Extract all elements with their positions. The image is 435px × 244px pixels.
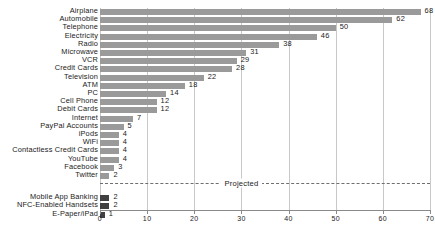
x-axis-line	[100, 210, 430, 211]
bar-value-label: 3	[118, 163, 122, 171]
bar-value-label: 31	[250, 48, 259, 56]
bar	[100, 58, 237, 64]
bar	[100, 165, 114, 171]
x-tick-label-40: 40	[284, 215, 293, 222]
category-label: E-Paper/iPad	[52, 210, 98, 218]
bar-value-label: 68	[425, 7, 434, 15]
bar	[100, 157, 119, 163]
bar-value-label: 7	[137, 114, 141, 122]
bar	[100, 124, 124, 130]
x-tick-0	[100, 210, 101, 214]
x-tick-label-60: 60	[379, 215, 388, 222]
bar-value-label: 38	[283, 40, 292, 48]
bar	[100, 99, 157, 105]
bar-row: ATM18	[0, 82, 435, 90]
bar-value-label: 50	[340, 23, 349, 31]
bar-row: Facebook3	[0, 164, 435, 172]
x-tick-70	[430, 210, 431, 214]
bar-value-label: 18	[189, 81, 198, 89]
bar	[100, 140, 119, 146]
x-tick-label-30: 30	[237, 215, 246, 222]
x-tick-label-20: 20	[190, 215, 199, 222]
x-tick-20	[194, 210, 195, 214]
x-tick-10	[147, 210, 148, 214]
bar	[100, 173, 109, 179]
bar-value-label: 2	[113, 201, 117, 209]
category-label: Twitter	[75, 171, 98, 179]
bar-value-label: 12	[161, 105, 170, 113]
bar-value-label: 62	[396, 15, 405, 23]
bar-row: Television22	[0, 74, 435, 82]
x-tick-label-0: 0	[98, 215, 102, 222]
bar-value-label: 22	[208, 73, 217, 81]
bar-chart: Airplane68Automobile62Telephone50Electri…	[0, 0, 435, 244]
bar	[100, 107, 157, 113]
bar	[100, 9, 421, 15]
x-tick-label-10: 10	[143, 215, 152, 222]
bar-value-label: 14	[170, 89, 179, 97]
bar	[100, 91, 166, 97]
projected-divider-label: Projected	[220, 179, 262, 188]
bar-row: Debit Cards12	[0, 106, 435, 114]
x-tick-label-70: 70	[426, 215, 435, 222]
x-tick-60	[383, 210, 384, 214]
bar	[100, 50, 246, 56]
bar-value-label: 5	[128, 122, 132, 130]
bar-row: iPods4	[0, 131, 435, 139]
bar-row: PayPal Accounts5	[0, 123, 435, 131]
bar-row: E-Paper/iPad1	[0, 211, 435, 219]
bar	[100, 132, 119, 138]
bar-row: Twitter2	[0, 172, 435, 180]
bar	[100, 195, 109, 201]
bar-row: Electricity46	[0, 33, 435, 41]
bar-row: Microwave31	[0, 49, 435, 57]
bar-value-label: 28	[236, 64, 245, 72]
x-tick-30	[241, 210, 242, 214]
x-tick-50	[336, 210, 337, 214]
bar-value-label: 46	[321, 32, 330, 40]
bar	[100, 25, 336, 31]
bar-value-label: 2	[113, 171, 117, 179]
projected-divider	[100, 183, 430, 184]
bar	[100, 203, 109, 209]
bar-row: Contactless Credit Cards4	[0, 147, 435, 155]
bar	[100, 148, 119, 154]
bar-value-label: 4	[123, 155, 127, 163]
x-tick-label-50: 50	[331, 215, 340, 222]
x-tick-40	[289, 210, 290, 214]
